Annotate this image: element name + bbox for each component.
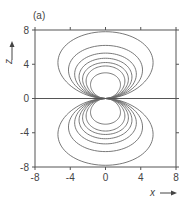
arrowhead-icon — [10, 41, 15, 47]
upper-contour-2 — [75, 53, 137, 98]
y-tick-label: -8 — [20, 162, 29, 173]
panel-label: (a) — [33, 10, 45, 21]
y-tick-label: 8 — [23, 25, 29, 36]
lower-contour-5 — [86, 99, 125, 132]
upper-contour-6 — [91, 73, 121, 99]
y-tick-label: 4 — [23, 59, 29, 70]
upper-contour-5 — [86, 66, 125, 99]
lower-contour-0 — [58, 99, 153, 166]
x-tick-label: -8 — [31, 172, 40, 183]
x-tick-label: 0 — [103, 172, 109, 183]
lower-contour-2 — [75, 99, 137, 144]
z-label: z — [3, 59, 14, 65]
arrowhead-icon — [171, 191, 177, 196]
y-tick-labels: -8-4048 — [20, 25, 29, 173]
z-axis-label: z — [3, 41, 15, 65]
contour-chart: (a) -8-4048 -8-4048 z x — [0, 0, 192, 206]
x-tick-label: 4 — [138, 172, 144, 183]
upper-contour-0 — [58, 32, 153, 99]
x-tick-labels: -8-4048 — [31, 172, 180, 183]
y-tick-label: 0 — [23, 93, 29, 104]
x-label: x — [149, 187, 156, 198]
x-tick-label: -4 — [66, 172, 75, 183]
lower-contour-6 — [91, 99, 121, 125]
x-tick-label: 8 — [173, 172, 179, 183]
x-axis-label: x — [149, 187, 177, 198]
y-tick-label: -4 — [20, 127, 29, 138]
